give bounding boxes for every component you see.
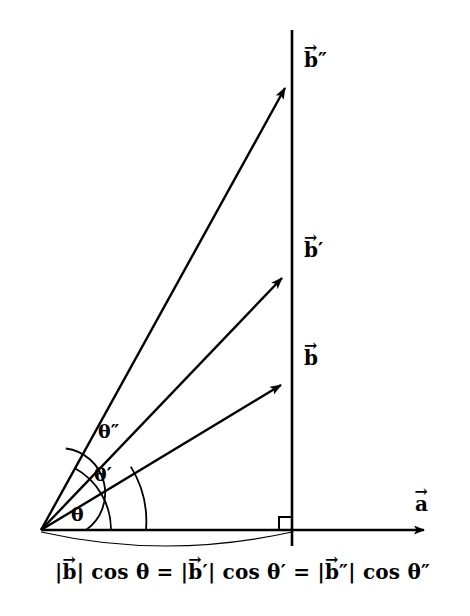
vector-b-double-prime-line xyxy=(41,88,285,530)
equation-magnitude: |→b′| xyxy=(181,560,216,584)
equation-term-1: |→b| cos θ xyxy=(55,560,157,584)
equation-trig: cos xyxy=(91,560,128,584)
equation-magnitude: |→b″| xyxy=(317,560,355,584)
label-vector-a: → a xyxy=(415,492,428,516)
vector-projection-diagram: → a → b ″ → b ′ → b θ″ θ′ θ |→b| xyxy=(0,0,470,616)
equation-relation: = xyxy=(157,560,174,584)
label-vector-b-double-prime: → b ″ xyxy=(304,48,327,72)
label-a-letter: a xyxy=(415,492,428,516)
label-b-letter: b xyxy=(304,238,318,262)
equation-relation: = xyxy=(293,560,310,584)
theta-symbol: θ xyxy=(98,420,111,442)
label-b-letter: b xyxy=(304,48,318,72)
label-primes: ′ xyxy=(318,238,323,262)
theta-symbol: θ xyxy=(94,463,107,485)
equation-angle: θ″ xyxy=(407,560,430,584)
vector-b-prime-line xyxy=(41,278,282,530)
projection-span-arc xyxy=(41,532,292,546)
label-vector-b-prime: → b ′ xyxy=(304,238,323,262)
theta-primes: ′ xyxy=(107,463,112,485)
equation-term-3: |→b″| cos θ″ xyxy=(317,560,430,584)
label-b-letter: b xyxy=(304,346,318,370)
right-angle-marker xyxy=(279,517,292,530)
label-angle-theta-prime: θ′ xyxy=(94,463,112,485)
angle-arc-theta xyxy=(131,467,147,530)
equation-trig: cos xyxy=(223,560,260,584)
theta-primes: ″ xyxy=(111,420,120,442)
equation-magnitude: |→b| xyxy=(55,560,84,584)
label-angle-theta-double-prime: θ″ xyxy=(98,420,119,442)
label-primes: ″ xyxy=(318,48,327,72)
label-angle-theta: θ xyxy=(71,503,84,525)
projection-equality-equation: |→b| cos θ = |→b′| cos θ′ = |→b″| cos θ″ xyxy=(55,560,430,584)
theta-symbol: θ xyxy=(71,503,84,525)
equation-trig: cos xyxy=(363,560,400,584)
label-vector-b: → b xyxy=(304,346,318,370)
equation-angle: θ xyxy=(136,560,150,584)
equation-term-2: |→b′| cos θ′ xyxy=(181,560,294,584)
equation-angle: θ′ xyxy=(267,560,286,584)
